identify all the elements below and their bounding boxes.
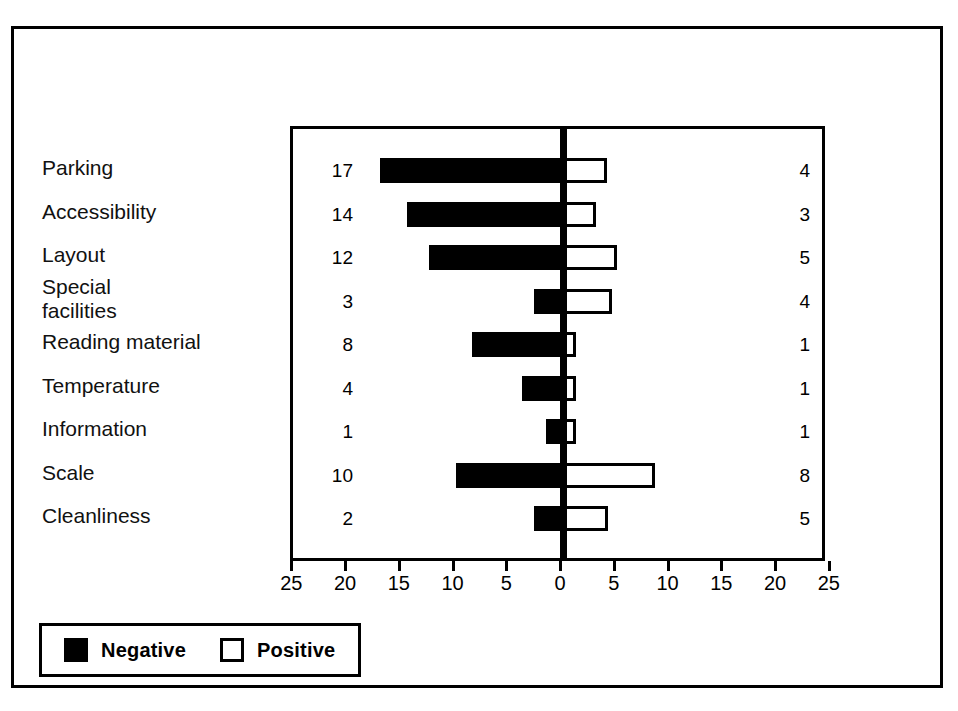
bar-negative — [456, 463, 564, 488]
category-label-line: Layout — [42, 243, 282, 267]
x-axis-tick-label: 0 — [540, 572, 580, 595]
bar-row: 143 — [293, 191, 822, 239]
x-axis-tick-label: 25 — [271, 572, 311, 595]
bar-row: 34 — [293, 278, 822, 326]
x-axis-tick — [828, 561, 831, 571]
positive-value-label: 8 — [756, 452, 810, 500]
category-label-line: Temperature — [42, 374, 282, 398]
bar-row: 108 — [293, 452, 822, 500]
negative-value-label: 1 — [299, 408, 353, 456]
x-axis-tick — [774, 561, 777, 571]
x-axis-tick-label: 5 — [486, 572, 526, 595]
category-label: Temperature — [42, 374, 282, 398]
bar-row: 81 — [293, 321, 822, 369]
zero-axis-line — [560, 128, 567, 559]
positive-value-label: 1 — [756, 408, 810, 456]
legend-label-negative: Negative — [101, 639, 186, 662]
negative-value-label: 12 — [299, 234, 353, 282]
bar-negative — [429, 245, 563, 270]
category-label-line: Parking — [42, 156, 282, 180]
category-label: Scale — [42, 461, 282, 485]
bar-negative — [407, 202, 563, 227]
category-label: Accessibility — [42, 200, 282, 224]
bar-rows-layer: 1741431253481411110825 — [293, 129, 822, 558]
positive-value-label: 5 — [756, 495, 810, 543]
x-axis-tick — [613, 561, 616, 571]
x-axis-tick-label: 15 — [379, 572, 419, 595]
chart-legend: Negative Positive — [39, 623, 361, 677]
bar-negative — [380, 158, 563, 183]
bar-row: 11 — [293, 408, 822, 456]
bar-negative — [522, 376, 563, 401]
x-axis-tick — [344, 561, 347, 571]
bar-negative — [534, 506, 563, 531]
negative-value-label: 4 — [299, 365, 353, 413]
category-label: Cleanliness — [42, 504, 282, 528]
category-label-line: Accessibility — [42, 200, 282, 224]
bar-positive — [563, 289, 612, 314]
x-axis-tick — [290, 561, 293, 571]
bar-row: 174 — [293, 147, 822, 195]
bar-row: 125 — [293, 234, 822, 282]
x-axis-tick — [452, 561, 455, 571]
bar-positive — [563, 158, 607, 183]
negative-value-label: 2 — [299, 495, 353, 543]
negative-value-label: 3 — [299, 278, 353, 326]
x-axis-tick — [398, 561, 401, 571]
category-label-column: ParkingAccessibilityLayoutSpecialfacilit… — [42, 126, 282, 561]
bar-positive — [563, 463, 655, 488]
x-axis: 2520151050510152025 — [290, 561, 825, 601]
positive-value-label: 4 — [756, 147, 810, 195]
x-axis-tick — [505, 561, 508, 571]
negative-value-label: 10 — [299, 452, 353, 500]
positive-value-label: 3 — [756, 191, 810, 239]
plot-area: 1741431253481411110825 — [290, 126, 825, 561]
x-axis-tick-label: 20 — [325, 572, 365, 595]
legend-item-positive: Positive — [220, 638, 335, 662]
x-axis-tick-label: 10 — [648, 572, 688, 595]
negative-value-label: 8 — [299, 321, 353, 369]
x-axis-tick-label: 25 — [809, 572, 849, 595]
legend-label-positive: Positive — [257, 639, 335, 662]
bar-positive — [563, 202, 596, 227]
bar-positive — [563, 245, 617, 270]
x-axis-tick-label: 20 — [755, 572, 795, 595]
x-axis-tick-label: 10 — [433, 572, 473, 595]
category-label-line: Cleanliness — [42, 504, 282, 528]
category-label: Information — [42, 417, 282, 441]
x-axis-tick — [720, 561, 723, 571]
category-label-line: Reading material — [42, 330, 282, 354]
bar-negative — [472, 332, 563, 357]
category-label-line: Scale — [42, 461, 282, 485]
legend-item-negative: Negative — [64, 638, 186, 662]
legend-swatch-positive-icon — [220, 638, 244, 662]
category-label: Reading material — [42, 330, 282, 354]
negative-value-label: 17 — [299, 147, 353, 195]
category-label: Layout — [42, 243, 282, 267]
bar-negative — [534, 289, 563, 314]
positive-value-label: 4 — [756, 278, 810, 326]
x-axis-tick-label: 5 — [594, 572, 634, 595]
bar-row: 41 — [293, 365, 822, 413]
category-label: Specialfacilities — [42, 275, 282, 323]
positive-value-label: 5 — [756, 234, 810, 282]
x-axis-tick — [559, 561, 562, 571]
category-label-line: facilities — [42, 299, 282, 323]
figure-outer-border: ParkingAccessibilityLayoutSpecialfacilit… — [11, 26, 943, 688]
category-label-line: Special — [42, 275, 282, 299]
category-label: Parking — [42, 156, 282, 180]
x-axis-tick-label: 15 — [701, 572, 741, 595]
category-label-line: Information — [42, 417, 282, 441]
positive-value-label: 1 — [756, 321, 810, 369]
bar-row: 25 — [293, 495, 822, 543]
positive-value-label: 1 — [756, 365, 810, 413]
negative-value-label: 14 — [299, 191, 353, 239]
bar-positive — [563, 506, 608, 531]
x-axis-tick — [667, 561, 670, 571]
legend-swatch-negative-icon — [64, 638, 88, 662]
